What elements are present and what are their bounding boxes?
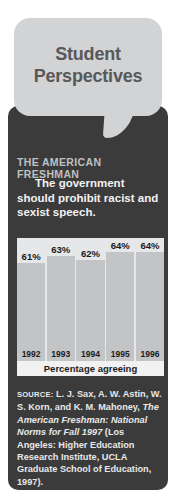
x-tick-1992: 1992 <box>17 348 45 361</box>
x-tick-1994: 1994 <box>76 348 104 361</box>
bar-1996 <box>136 252 164 348</box>
bar-1995 <box>106 252 134 348</box>
bar-value-label: 64% <box>106 240 134 251</box>
bar-column: 64% <box>136 238 164 348</box>
bar-1993 <box>47 256 75 348</box>
bar-value-label: 63% <box>47 244 75 255</box>
bar-column: 64% <box>106 238 134 348</box>
bar-1992 <box>17 263 45 348</box>
bar-column: 63% <box>47 238 75 348</box>
source-citation: SOURCE: L. J. Sax, A. W. Astin, W. S. Ko… <box>17 388 165 488</box>
x-tick-1995: 1995 <box>106 348 134 361</box>
bar-chart: 61% 63% 62% 64% <box>17 238 164 370</box>
bar-1994 <box>76 260 104 348</box>
title-line-2: Perspectives <box>14 65 162 87</box>
bar-value-label: 64% <box>136 240 164 251</box>
speech-bubble: Student Perspectives <box>14 18 162 116</box>
x-axis-year-labels: 1992 1993 1994 1995 1996 <box>17 348 164 361</box>
title-line-1: Student <box>14 43 162 65</box>
survey-statement: The government should prohibit racist an… <box>17 176 163 220</box>
bar-series: 61% 63% 62% 64% <box>17 238 164 348</box>
source-label: SOURCE: <box>17 390 53 399</box>
x-tick-1996: 1996 <box>136 348 164 361</box>
x-tick-1993: 1993 <box>47 348 75 361</box>
panel-content: THE AMERICAN FRESHMAN The government sho… <box>8 106 168 490</box>
student-perspectives-infographic: THE AMERICAN FRESHMAN The government sho… <box>0 0 176 496</box>
bar-value-label: 62% <box>76 248 104 259</box>
bar-column: 61% <box>17 238 45 348</box>
bar-value-label: 61% <box>17 251 45 262</box>
dark-panel: THE AMERICAN FRESHMAN The government sho… <box>8 106 168 490</box>
x-axis-caption: Percentage agreeing <box>17 361 164 376</box>
page-title: Student Perspectives <box>14 43 162 87</box>
chart-plot-area: 61% 63% 62% 64% <box>17 238 164 348</box>
bar-column: 62% <box>76 238 104 348</box>
